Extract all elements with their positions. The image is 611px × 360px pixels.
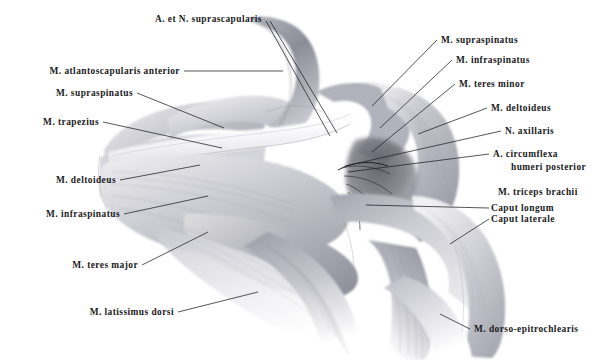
label-m-infraspinatus-left: M. infraspinatus <box>0 208 120 220</box>
label-a-circumflexa-humeri-posterior-line2: humeri posterior <box>511 161 586 173</box>
label-m-infraspinatus-right: M. infraspinatus <box>456 54 530 66</box>
label-m-deltoideus-left: M. deltoideus <box>0 174 116 186</box>
label-m-deltoideus-right: M. deltoideus <box>491 102 551 114</box>
label-m-latissimus-dorsi: M. latissimus dorsi <box>0 306 174 318</box>
label-a-circumflexa-humeri-posterior-line1: A. circumflexa <box>493 148 558 160</box>
anatomical-plate: A. et N. suprascapularis M. atlantoscapu… <box>0 0 611 360</box>
label-n-axillaris: N. axillaris <box>505 125 554 137</box>
label-a-et-n-suprascapularis: A. et N. suprascapularis <box>155 13 262 25</box>
label-m-triceps-brachii: M. triceps brachii <box>498 186 578 198</box>
label-m-supraspinatus-right: M. supraspinatus <box>441 34 518 46</box>
label-m-supraspinatus-left: M. supraspinatus <box>0 87 133 99</box>
label-m-trapezius: M. trapezius <box>0 116 99 128</box>
label-caput-laterale: Caput laterale <box>491 213 555 225</box>
label-m-atlantoscapularis-anterior: M. atlantoscapularis anterior <box>0 65 180 77</box>
label-m-teres-major: M. teres major <box>0 259 138 271</box>
label-m-teres-minor: M. teres minor <box>459 78 525 90</box>
label-m-dorso-epitrochlearis: M. dorso-epitrochlearis <box>474 323 578 335</box>
